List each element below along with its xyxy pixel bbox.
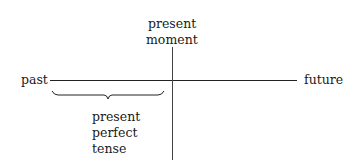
span-label-2: perfect: [92, 125, 137, 140]
span-label-3: tense: [92, 141, 126, 156]
past-label: past: [21, 72, 48, 87]
present-moment-label-2: moment: [146, 32, 198, 47]
future-label: future: [304, 72, 343, 87]
present-moment-label-1: present: [148, 16, 196, 31]
present-perfect-brace: [52, 91, 164, 99]
span-label-1: present: [92, 109, 140, 124]
